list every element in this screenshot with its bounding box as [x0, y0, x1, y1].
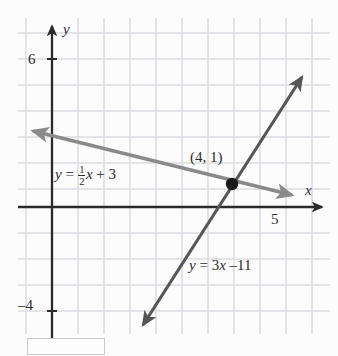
- x-tick-label-5: 5: [271, 212, 279, 227]
- eq-dark-var: x: [219, 257, 226, 273]
- figure-canvas: y x 6 –4 5 (4, 1) y = 12x + 3 y = 3x –11: [0, 0, 338, 356]
- eq-gray-equals: =: [65, 166, 73, 182]
- eq-gray-rest: + 3: [96, 166, 116, 182]
- equation-label-gray-line: y = 12x + 3: [55, 164, 116, 187]
- y-axis-label: y: [63, 22, 70, 37]
- intersection-point-label: (4, 1): [190, 150, 223, 165]
- graph-background: [0, 0, 338, 356]
- coordinate-graph: [0, 0, 338, 356]
- eq-dark-lhs: y: [189, 257, 196, 273]
- eq-gray-frac-spacer: [74, 166, 78, 182]
- eq-gray-fraction: 12: [78, 164, 85, 187]
- eq-dark-pre: = 3: [199, 257, 219, 273]
- answer-input-box[interactable]: [27, 338, 105, 355]
- y-tick-label-neg4: –4: [18, 298, 33, 313]
- x-axis-label: x: [305, 183, 312, 198]
- eq-gray-frac-denominator: 2: [78, 176, 85, 187]
- eq-dark-post: –11: [230, 257, 252, 273]
- eq-gray-frac-numerator: 1: [78, 164, 85, 176]
- eq-gray-lhs: y: [55, 166, 62, 182]
- equation-label-dark-line: y = 3x –11: [189, 258, 252, 273]
- y-tick-label-6: 6: [28, 52, 36, 67]
- intersection-point-marker: [226, 178, 238, 190]
- eq-gray-var: x: [86, 166, 93, 182]
